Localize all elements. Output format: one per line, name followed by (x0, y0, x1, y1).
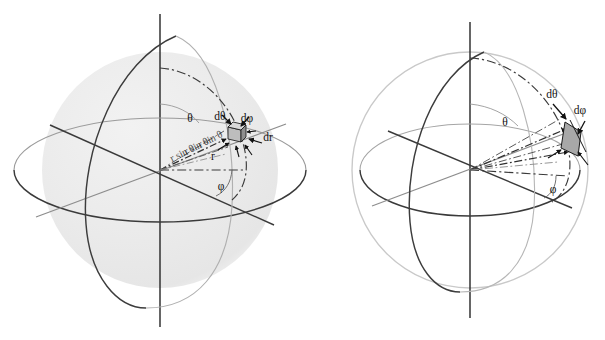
right-phi-label: φ (550, 183, 557, 196)
x-axis (372, 133, 566, 206)
left-dr-label: dr (263, 131, 273, 143)
meridian-great-circle-front (409, 52, 484, 292)
left-r-label: r (211, 150, 215, 162)
right-theta-label: θ (502, 116, 508, 128)
d-theta-arrow (553, 104, 566, 119)
solid-angle-ray-fan (470, 119, 570, 170)
left-d-theta-label: dθ (214, 110, 226, 122)
meridian-dashdot-arc (470, 58, 570, 202)
surface-element-patch (561, 122, 581, 156)
spherical-coordinates-figure: r sin θ r sin θ r sin θ θ (0, 0, 605, 340)
right-d-theta-label: dθ (546, 88, 558, 100)
left-sphere-panel: r sin θ r sin θ r sin θ θ (14, 14, 306, 327)
right-sphere-panel: θ dθ dφ φ (352, 22, 588, 318)
cone-ray-upper (470, 129, 566, 170)
right-d-phi-label: dφ (574, 104, 587, 117)
left-theta-label: θ (187, 112, 193, 124)
volume-element-cube (228, 122, 246, 142)
figure-root: r sin θ r sin θ r sin θ θ (0, 0, 605, 340)
left-d-phi-label: dφ (241, 112, 254, 125)
cone-ray-bottom (470, 162, 558, 170)
meridian-great-circle-back (460, 52, 535, 292)
y-axis (388, 131, 572, 208)
cone-ray-top (470, 119, 560, 170)
theta-angle-arc (470, 104, 518, 126)
left-phi-label: φ (218, 180, 225, 193)
